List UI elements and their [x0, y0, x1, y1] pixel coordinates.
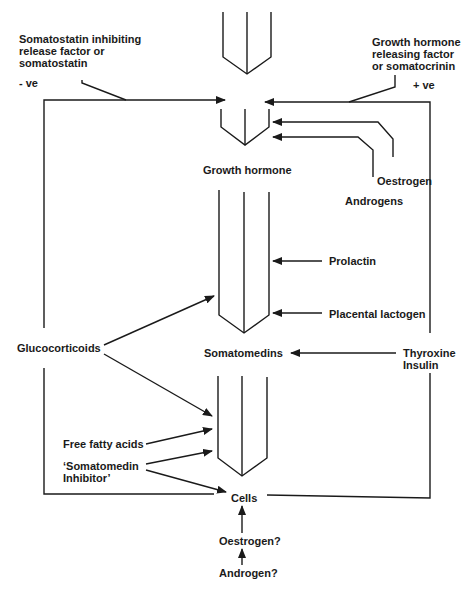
label-somatostatin: Somatostatin inhibiting release factor o… — [19, 33, 141, 69]
flow-arrow-top — [223, 12, 271, 74]
glucocorticoids-arrow-lower — [104, 354, 212, 416]
label-androgens: Androgens — [345, 195, 403, 207]
label-ghrh: Growth hormone releasing factor or somat… — [372, 36, 461, 72]
oestrogen-arrow — [273, 122, 393, 157]
flow-arrow-somatomedins — [218, 376, 267, 476]
label-placental-lactogen: Placental lactogen — [329, 308, 426, 320]
label-thyroxine-insulin: Thyroxine Insulin — [403, 347, 456, 371]
label-somatomedins: Somatomedins — [204, 347, 283, 359]
somatomedin-inhibitor-arrow-cells — [146, 470, 226, 492]
flow-arrow-pituitary — [221, 109, 269, 145]
label-negative: - ve — [19, 77, 38, 89]
label-cells: Cells — [231, 492, 257, 504]
label-oestrogen: Oestrogen — [377, 175, 432, 187]
label-growth-hormone: Growth hormone — [203, 164, 292, 176]
label-somatomedin-inhibitor: ‘Somatomedin Inhibitor’ — [63, 460, 139, 484]
label-prolactin: Prolactin — [329, 255, 376, 267]
somatomedin-inhibitor-arrow-upper — [146, 451, 212, 464]
label-oestrogen-q: Oestrogen? — [219, 535, 281, 547]
label-positive: + ve — [413, 79, 435, 91]
label-glucocorticoids: Glucocorticoids — [17, 342, 101, 354]
label-free-fatty-acids: Free fatty acids — [63, 438, 144, 450]
flow-arrow-growth-hormone — [219, 190, 269, 333]
free-fatty-acids-arrow — [146, 429, 212, 444]
glucocorticoids-arrow-upper — [104, 296, 214, 345]
positive-feedback-loop — [265, 75, 430, 498]
label-androgen-q: Androgen? — [219, 567, 278, 579]
